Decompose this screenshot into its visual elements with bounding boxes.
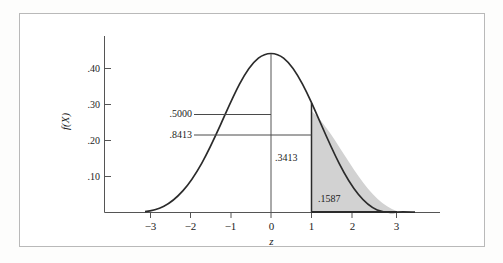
- x-tick-label-3: 3: [384, 221, 409, 232]
- annotation-label-1587: .1587: [318, 194, 341, 204]
- annotation-label-8413: .8413: [148, 130, 192, 140]
- y-tick-label-0.40: .40: [76, 64, 100, 74]
- y-tick-label-0.30: .30: [76, 100, 100, 110]
- x-tick-label--1: −1: [218, 221, 243, 232]
- figure-page: .40 .30 .20 .10 f(X) −3 −2 −1 0 1 2 3 z …: [0, 0, 503, 263]
- y-tick-label-0.20: .20: [76, 136, 100, 146]
- x-tick-label-0: 0: [259, 221, 284, 232]
- y-tick-label-0.10: .10: [76, 172, 100, 182]
- x-axis-label: z: [259, 236, 284, 247]
- normal-distribution-chart: [0, 0, 503, 263]
- annotation-label-3413: .3413: [275, 153, 298, 163]
- x-tick-label-2: 2: [340, 221, 365, 232]
- y-axis-label: f(X): [60, 107, 71, 137]
- annotation-label-5000: .5000: [148, 109, 192, 119]
- x-tick-label-1: 1: [299, 221, 324, 232]
- x-tick-label--2: −2: [178, 221, 203, 232]
- x-tick-label--3: −3: [138, 221, 163, 232]
